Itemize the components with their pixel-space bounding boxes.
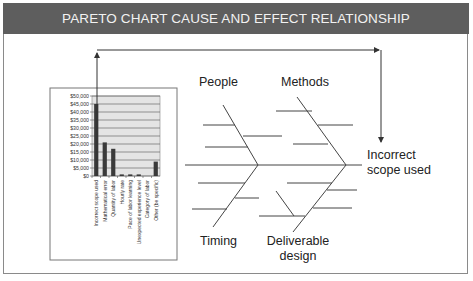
svg-text:Mathematical error: Mathematical error	[102, 180, 108, 222]
svg-text:Unexpected experience level: Unexpected experience level	[136, 180, 142, 244]
effect-label: Incorrect scope used	[367, 148, 431, 178]
pareto-chart: $50,000$45,000$40,000$35,000$30,000$25,0…	[50, 88, 177, 260]
svg-text:$30,000: $30,000	[70, 125, 89, 131]
svg-text:$10,000: $10,000	[70, 157, 89, 163]
fishbone-diagram	[185, 97, 362, 232]
svg-text:$25,000: $25,000	[70, 133, 89, 139]
svg-text:Quantity of labor: Quantity of labor	[110, 180, 116, 217]
svg-text:Other (be specific): Other (be specific)	[153, 180, 159, 221]
deliverable-line1: Deliverable	[266, 234, 330, 249]
category-label-methods: Methods	[281, 75, 329, 90]
svg-text:$0: $0	[83, 173, 89, 179]
category-label-people: People	[199, 75, 238, 90]
svg-text:$20,000: $20,000	[70, 141, 89, 147]
effect-line1: Incorrect	[367, 148, 431, 163]
category-label-timing: Timing	[200, 234, 237, 249]
svg-text:Hourly rate: Hourly rate	[119, 180, 125, 205]
svg-text:$35,000: $35,000	[70, 117, 89, 123]
svg-text:Pace of labor learning: Pace of labor learning	[127, 180, 133, 229]
svg-text:$5,000: $5,000	[73, 165, 89, 171]
svg-text:$45,000: $45,000	[70, 101, 89, 107]
effect-line2: scope used	[367, 163, 431, 178]
svg-text:$50,000: $50,000	[70, 93, 89, 99]
svg-text:Incorrect scope used: Incorrect scope used	[93, 180, 99, 227]
svg-text:$15,000: $15,000	[70, 149, 89, 155]
category-label-deliverable: Deliverable design	[266, 234, 330, 264]
deliverable-line2: design	[266, 249, 330, 264]
svg-text:$40,000: $40,000	[70, 109, 89, 115]
svg-text:Category of labor: Category of labor	[144, 180, 150, 219]
